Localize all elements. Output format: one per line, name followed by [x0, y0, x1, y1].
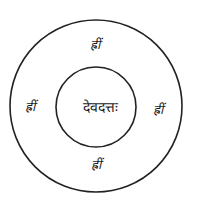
ring-text-top: ह्रीं [90, 35, 100, 53]
ring-text-right: ह्रीं [153, 100, 163, 118]
ring-text-bottom: ह्रीं [91, 155, 101, 173]
ring-text-left: ह्रीं [25, 97, 35, 115]
center-text: देवदत्तः [83, 97, 118, 116]
